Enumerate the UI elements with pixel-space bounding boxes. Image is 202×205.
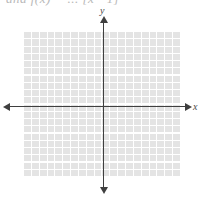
grid-panel: [23, 31, 180, 176]
y-axis-label: y: [100, 6, 104, 16]
x-axis-line: [8, 106, 186, 107]
x-axis-arrow-right-icon: [185, 103, 192, 111]
x-axis-arrow-left-icon: [3, 103, 10, 111]
y-axis-arrow-up-icon: [100, 16, 108, 23]
x-axis-label: x: [193, 102, 197, 112]
y-axis-line: [103, 21, 104, 188]
coordinate-plane-figure: and f(x) = ... [x - 1] x y: [0, 0, 202, 205]
y-axis-arrow-down-icon: [100, 187, 108, 194]
